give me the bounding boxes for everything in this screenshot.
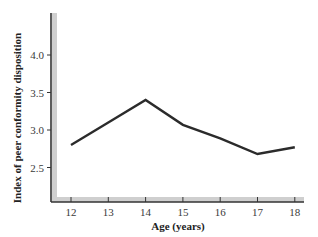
x-tick-label: 14: [140, 206, 152, 218]
y-axis-shadow: [52, 13, 57, 202]
y-tick-label: 3.5: [30, 87, 44, 99]
x-tick-label: 16: [215, 206, 227, 218]
y-tick-label: 2.5: [30, 162, 44, 174]
x-tick-label: 13: [103, 206, 115, 218]
x-axis-title: Age (years): [151, 220, 205, 233]
y-axis-ticks: 2.53.03.54.0: [30, 49, 51, 174]
x-tick-label: 12: [66, 206, 77, 218]
line-chart: 2.53.03.54.0 12131415161718 Age (years) …: [0, 0, 318, 237]
x-tick-label: 17: [252, 206, 264, 218]
data-line: [71, 100, 295, 154]
x-tick-label: 18: [289, 206, 301, 218]
y-tick-label: 4.0: [30, 49, 44, 61]
y-tick-label: 3.0: [30, 124, 44, 136]
x-tick-label: 15: [177, 206, 189, 218]
y-axis-title: Index of peer conformity disposition: [11, 33, 23, 203]
